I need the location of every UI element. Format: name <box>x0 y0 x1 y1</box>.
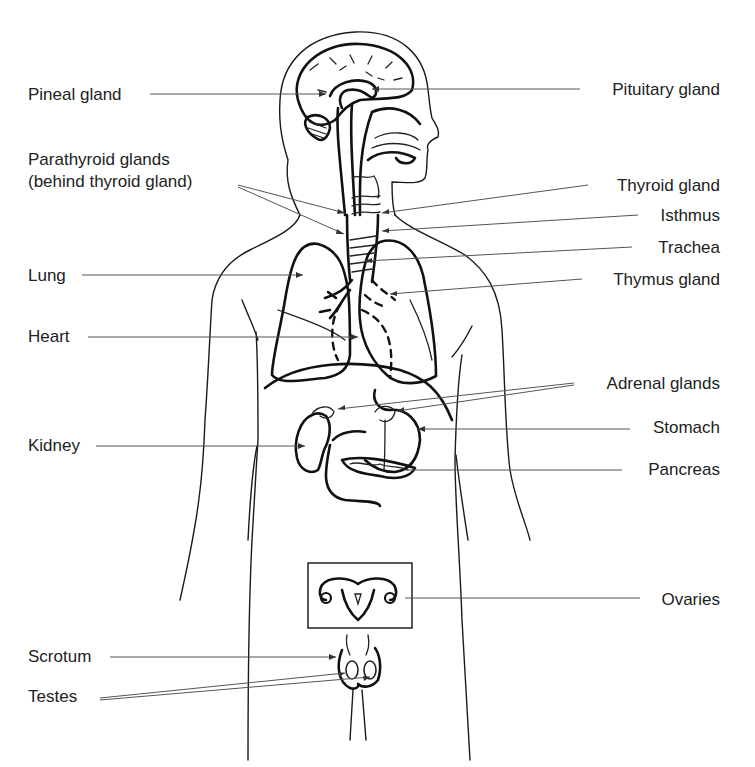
label-isthmus: Isthmus <box>660 206 720 226</box>
label-thymus-gland: Thymus gland <box>613 270 720 290</box>
stomach-inner <box>384 420 385 470</box>
groin-lines <box>346 635 368 655</box>
label-parathyroid-glands: Parathyroid glands <box>28 150 170 170</box>
label-stomach: Stomach <box>653 418 720 438</box>
label-ovaries: Ovaries <box>661 590 720 610</box>
endocrine-system-diagram: Pineal gland Parathyroid glands (behind … <box>0 0 755 767</box>
brain-folds <box>310 55 402 92</box>
label-pancreas: Pancreas <box>648 460 720 480</box>
label-heart: Heart <box>28 327 70 347</box>
label-thyroid-gland: Thyroid gland <box>617 176 720 196</box>
oral-cavity <box>368 152 415 163</box>
torso-right <box>452 326 472 760</box>
label-adrenal-glands: Adrenal glands <box>607 374 720 394</box>
thyroid-gland-shape <box>352 196 380 214</box>
label-lung: Lung <box>28 266 66 286</box>
testis-right <box>364 661 376 679</box>
label-scrotum: Scrotum <box>28 647 91 667</box>
diaphragm <box>265 364 452 420</box>
label-testes: Testes <box>28 687 77 707</box>
trachea-rings <box>350 236 376 272</box>
larynx <box>352 176 379 198</box>
nasal-turbinates <box>372 133 420 150</box>
label-pituitary-gland: Pituitary gland <box>612 80 720 100</box>
scrotum-shape <box>339 648 380 689</box>
testis-left <box>346 661 358 679</box>
neck-shoulders-left <box>180 215 300 600</box>
label-trachea: Trachea <box>658 238 720 258</box>
kidney-shape <box>296 413 330 472</box>
label-parathyroid-note: (behind thyroid gland) <box>28 172 192 192</box>
cervix <box>355 594 361 604</box>
label-kidney: Kidney <box>28 436 80 456</box>
brain <box>297 44 413 125</box>
label-pineal-gland: Pineal gland <box>28 85 122 105</box>
lung-left-fissure <box>278 310 345 340</box>
torso-left <box>242 300 258 760</box>
legs-inner <box>350 690 366 740</box>
